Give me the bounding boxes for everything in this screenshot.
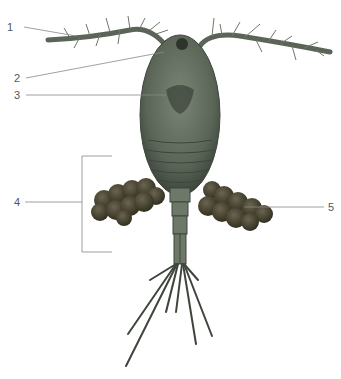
copepod-illustration (0, 0, 341, 379)
label-1: 1 (7, 21, 13, 33)
left-antenna (48, 16, 168, 48)
copepod-diagram: 1 2 3 4 5 (0, 0, 341, 379)
leader-1 (24, 27, 76, 36)
label-5: 5 (328, 201, 334, 213)
right-antenna (200, 18, 330, 60)
label-4: 4 (14, 196, 20, 208)
body (140, 35, 220, 195)
tail (170, 188, 190, 264)
right-egg-sac (198, 181, 273, 231)
label-3: 3 (14, 89, 20, 101)
leader-2 (26, 52, 164, 78)
label-2: 2 (14, 72, 20, 84)
left-egg-sac (91, 178, 165, 226)
caudal-setae (126, 264, 212, 366)
